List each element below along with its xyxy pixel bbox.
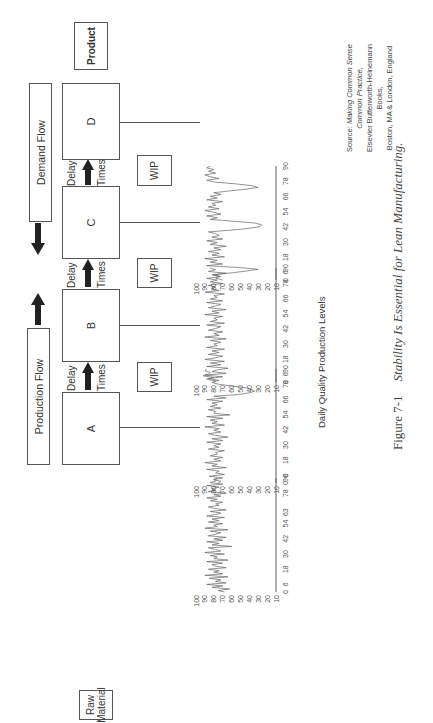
y-tick-label: 30 [255,486,262,494]
y-tick-label: 40 [246,283,253,291]
y-tick-label: 90 [201,595,208,603]
x-tick-label: 30 [282,238,289,246]
connector-c [120,222,200,223]
y-tick-label: 50 [237,385,244,393]
y-tick-label: 60 [228,283,235,291]
y-tick-label: 40 [246,486,253,494]
production-flow-label: Production Flow [33,359,45,434]
x-tick-label: 0 [282,590,289,594]
x-tick-label: 0 [282,481,289,485]
station-b-box: B [62,289,120,362]
y-tick-label: 10 [273,486,280,494]
delay-label-1: Delay [66,365,77,391]
x-tick-label: 6 [282,270,289,274]
x-tick-label: 54 [282,520,289,528]
demand-flow-arrow-icon [31,223,45,255]
y-tick-label: 50 [237,595,244,603]
y-tick-label: 10 [273,283,280,291]
x-tick-label: 18 [282,355,289,363]
x-tick-label: 42 [282,223,289,231]
x-tick-label: 18 [282,456,289,464]
x-tick-label: 30 [282,441,289,449]
wip-box-3: WIP [137,155,172,186]
x-tick-label: 6 [282,473,289,477]
x-tick-label: 18 [282,565,289,573]
x-tick-label: 0 [282,278,289,282]
y-tick-label: 70 [219,486,226,494]
x-tick-label: 6 [282,582,289,586]
y-tick-label: 20 [264,486,271,494]
y-tick-label: 70 [219,283,226,291]
x-tick-label: 18 [282,253,289,261]
x-tick-label: 63 [282,508,289,516]
raw-material-box: Raw Material [79,690,113,720]
y-tick-label: 80 [210,283,217,291]
figure-caption: Figure 7-1Stability Is Essential for Lea… [390,142,406,450]
y-tick-label: 90 [201,486,208,494]
y-tick-label: 70 [219,595,226,603]
data-series-line [205,166,262,280]
station-a-box: A [62,392,120,465]
x-tick-label: 90 [282,162,289,170]
transition-arrow-2-icon [82,259,94,287]
production-flow-box: Production Flow [27,328,50,465]
station-a-label: A [85,425,97,432]
source-line1: Source: Making Common Sense Common Pract… [345,36,365,160]
source-citation: Source: Making Common Sense Common Pract… [345,36,395,160]
station-b-label: B [85,322,97,329]
wip-box-2: WIP [137,258,172,288]
y-tick-label: 50 [237,283,244,291]
y-tick-label: 100 [193,595,200,607]
wip-label-2: WIP [149,264,160,283]
y-tick-label: 60 [228,486,235,494]
x-tick-label: 42 [282,426,289,434]
y-tick-label: 50 [237,486,244,494]
y-tick-label: 30 [255,595,262,603]
delay-label-3: Delay [66,160,77,186]
station-c-label: C [85,219,97,227]
wip-label-1: WIP [149,368,160,387]
x-tick-label: 66 [282,192,289,200]
source-line2: Elsevier Butterworth-Heinemann Books, [365,36,385,160]
y-tick-label: 30 [255,283,262,291]
transition-arrow-1-icon [82,362,94,390]
y-tick-label: 90 [201,283,208,291]
chart-station-d: 1009080706050403020100618304254667890 [192,160,296,300]
connector-d [120,122,200,123]
product-label: Product [86,27,97,65]
station-c-box: C [62,186,120,259]
x-tick-label: 6 [282,372,289,376]
delay-label-2: Delay [66,262,77,288]
y-tick-label: 80 [210,595,217,603]
y-tick-label: 10 [273,385,280,393]
x-tick-label: 54 [282,208,289,216]
demand-flow-box: Demand Flow [29,83,52,222]
station-d-label: D [85,118,97,126]
x-tick-label: 42 [282,535,289,543]
y-tick-label: 80 [210,385,217,393]
y-tick-label: 40 [246,385,253,393]
y-tick-label: 20 [264,595,271,603]
y-tick-label: 60 [228,385,235,393]
x-tick-label: 78 [282,177,289,185]
line-chart: 1009080706050403020100618304254667890 [192,160,292,300]
y-tick-label: 80 [210,486,217,494]
source-line3: Boston, MA & London, England [385,36,395,160]
x-tick-label: 30 [282,550,289,558]
wip-label-3: WIP [149,161,160,180]
y-tick-label: 100 [193,385,200,397]
x-tick-label: 0 [282,380,289,384]
connector-a [120,427,200,428]
y-tick-label: 70 [219,385,226,393]
raw-material-line1: Raw [85,695,96,715]
station-d-box: D [62,83,120,160]
wip-box-1: WIP [137,362,172,392]
x-tick-label: 42 [282,325,289,333]
times-label-1: Times [96,364,107,391]
figure-caption-text: Stability Is Essential for Lean Manufact… [390,142,405,381]
x-tick-label: 54 [282,310,289,318]
y-tick-label: 20 [264,385,271,393]
raw-material-line2: Material [96,687,107,723]
figure-number: Figure 7-1 [390,395,405,450]
